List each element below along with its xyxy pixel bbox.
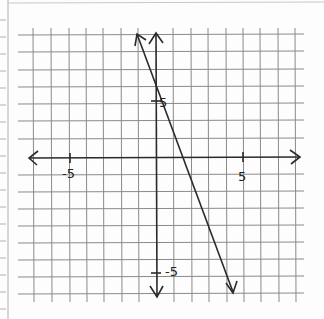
x-tick-label-5: 5 [238, 169, 246, 184]
y-tick-label-neg5: -5 [165, 264, 178, 279]
x-tick-label-neg5: -5 [62, 166, 75, 181]
coordinate-plane: -5 5 5 -5 [0, 0, 324, 319]
plotted-line [135, 34, 237, 293]
grid-lines [18, 28, 304, 302]
y-tick-label-5: 5 [159, 95, 167, 110]
graph-paper: -5 5 5 -5 [0, 0, 324, 319]
left-margin-lines [0, 0, 324, 319]
